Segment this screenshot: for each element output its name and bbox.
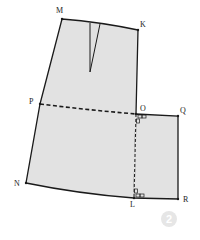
label-r: R: [183, 195, 189, 204]
step-badge: 2: [161, 211, 177, 227]
pattern-diagram: M K P O Q N L R 2: [0, 0, 200, 240]
label-k: K: [140, 20, 146, 29]
label-m: M: [56, 6, 63, 15]
svg-text:2: 2: [166, 213, 172, 225]
label-n: N: [14, 179, 20, 188]
label-l: L: [130, 200, 135, 209]
extension-panel: [134, 114, 178, 199]
label-p: P: [29, 97, 34, 106]
label-q: Q: [180, 106, 186, 115]
label-o: O: [140, 104, 146, 113]
